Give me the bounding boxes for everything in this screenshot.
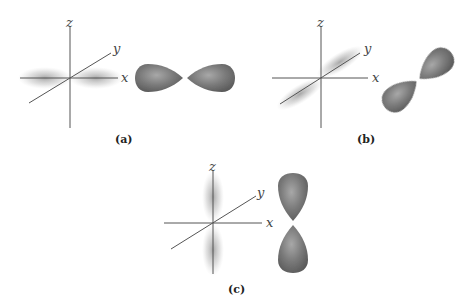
- axis-label-x: x: [266, 215, 274, 230]
- axis-label-z: z: [208, 159, 216, 174]
- panel-caption: (a): [115, 133, 133, 146]
- orbital-lobe: [278, 225, 308, 273]
- orbital-lobe: [377, 71, 425, 117]
- axis-label-x: x: [372, 70, 380, 85]
- p-orbitals-figure: z y x (a) z y x (b) z y x (c): [0, 0, 471, 301]
- orbital-lobe: [411, 42, 459, 88]
- orbital-lobe: [187, 64, 235, 92]
- panel-caption: (c): [228, 283, 245, 296]
- axis-label-y: y: [112, 41, 121, 56]
- axis-label-y: y: [363, 41, 372, 56]
- axis-label-x: x: [121, 70, 129, 85]
- panel-c: z y x (c): [164, 159, 308, 296]
- orbital-lobe: [135, 64, 183, 92]
- axis-label-z: z: [316, 15, 324, 30]
- axis-label-y: y: [256, 185, 265, 200]
- axis-label-z: z: [65, 15, 73, 30]
- orbital-lobe: [278, 173, 308, 221]
- panel-b: z y x (b): [272, 15, 459, 146]
- panel-caption: (b): [357, 133, 375, 146]
- panel-a: z y x (a): [18, 15, 235, 146]
